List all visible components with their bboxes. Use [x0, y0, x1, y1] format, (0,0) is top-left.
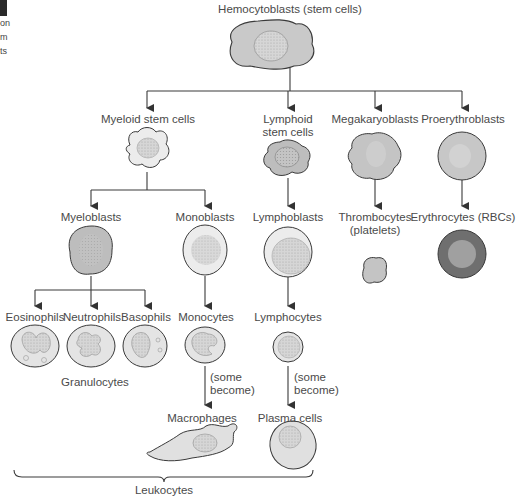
neutrophil-cell [67, 325, 115, 367]
myeloblast-cell [69, 226, 112, 274]
proerythroblast-cell [438, 132, 486, 180]
label-basophils: Basophils [118, 311, 174, 324]
label-monoblasts: Monoblasts [170, 211, 240, 224]
label-myeloid-stem-cells: Myeloid stem cells [90, 113, 206, 126]
label-hemocytoblasts: Hemocytoblasts (stem cells) [210, 3, 370, 16]
note-monocyte-become: become) [210, 384, 255, 397]
label-plasma-cells: Plasma cells [250, 412, 330, 425]
label-lymphoid-line-2: stem cells [255, 126, 321, 139]
note-monocyte-some: (some [210, 371, 242, 384]
monocyte-cell [185, 327, 225, 363]
lymphoblast-cell [264, 227, 312, 277]
lymphocyte-cell [273, 332, 303, 362]
label-lymphocytes: Lymphocytes [250, 311, 326, 324]
label-lymphoid-line-1: Lymphoid [255, 113, 321, 126]
note-lymphocyte-become: become) [294, 384, 339, 397]
macrophage-cell [147, 424, 237, 461]
lymphoid-stem-cell [264, 140, 310, 176]
label-neutrophils: Neutrophils [58, 311, 126, 324]
label-monocytes: Monocytes [175, 311, 237, 324]
label-thrombocytes-line-2: (platelets) [335, 224, 415, 237]
myeloid-stem-cell [126, 128, 169, 168]
megakaryoblast-cell [348, 133, 401, 180]
note-lymphocyte-some: (some [294, 371, 326, 384]
basophil-cell [123, 325, 167, 367]
label-lymphoblasts: Lymphoblasts [250, 211, 326, 224]
label-thrombocytes-line-1: Thrombocytes [335, 211, 415, 224]
label-leukocytes: Leukocytes [124, 484, 204, 497]
label-granulocytes: Granulocytes [50, 376, 140, 389]
label-proerythroblasts: Proerythroblasts [420, 113, 506, 126]
eosinophil-cell [11, 325, 59, 367]
hemocytoblast-cell [230, 20, 314, 69]
label-myeloblasts: Myeloblasts [55, 211, 127, 224]
thrombocyte-cell [363, 257, 387, 283]
label-megakaryoblasts: Megakaryoblasts [330, 113, 420, 126]
label-macrophages: Macrophages [160, 412, 244, 425]
monoblast-cell [183, 225, 227, 275]
label-erythrocytes: Erythrocytes (RBCs) [408, 211, 518, 224]
erythrocyte-cell [438, 230, 486, 278]
